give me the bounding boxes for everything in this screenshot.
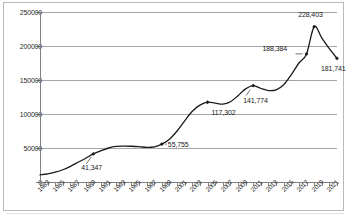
- y-tick-label: 100000: [20, 111, 42, 118]
- data-point-label: 41,347: [81, 164, 102, 171]
- data-point-label: 188,384: [263, 45, 288, 52]
- data-point-label: 141,774: [243, 97, 268, 104]
- chart-frame: [3, 2, 344, 211]
- chart-screenshot: 050000100000150000200000250000 198319851…: [0, 0, 348, 220]
- y-tick-label: 250000: [20, 9, 42, 16]
- data-point-label: 55,755: [168, 141, 189, 148]
- gridline: [40, 148, 337, 149]
- gridline: [40, 46, 337, 47]
- data-point-label: 181,741: [321, 65, 346, 72]
- data-point-label: 228,403: [298, 11, 323, 18]
- y-tick-label: 200000: [20, 43, 42, 50]
- gridline: [40, 80, 337, 81]
- frame-shadow: [6, 213, 344, 214]
- y-axis-line: [40, 12, 41, 183]
- y-tick-label: 150000: [20, 77, 42, 84]
- gridline: [40, 114, 337, 115]
- data-point-label: 117,302: [212, 109, 236, 116]
- gridline: [40, 12, 337, 13]
